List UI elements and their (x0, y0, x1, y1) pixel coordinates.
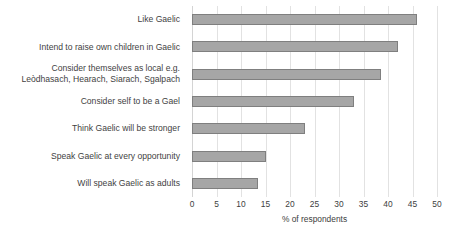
x-tick-label: 5 (214, 199, 219, 209)
bar-row (192, 170, 437, 197)
category-label: Consider themselves as local e.g. Leòdha… (0, 61, 186, 88)
bar[interactable] (192, 178, 258, 189)
category-label: Will speak Gaelic as adults (0, 170, 186, 197)
bar[interactable] (192, 41, 398, 52)
category-label: Intend to raise own children in Gaelic (0, 33, 186, 60)
bar[interactable] (192, 151, 266, 162)
bar-row (192, 6, 437, 33)
x-tick-label: 35 (359, 199, 368, 209)
category-axis: Like Gaelic Intend to raise own children… (0, 6, 186, 197)
bar-row (192, 115, 437, 142)
bar[interactable] (192, 96, 354, 107)
category-label: Think Gaelic will be stronger (0, 115, 186, 142)
x-tick-label: 45 (408, 199, 417, 209)
bar-row (192, 61, 437, 88)
x-tick-label: 30 (334, 199, 343, 209)
bar-chart: Like Gaelic Intend to raise own children… (0, 0, 460, 245)
x-tick-label: 10 (236, 199, 245, 209)
x-tick-label: 50 (432, 199, 441, 209)
plot-area (192, 6, 437, 197)
x-tick-label: 40 (383, 199, 392, 209)
x-tick-label: 25 (310, 199, 319, 209)
x-tick-label: 20 (285, 199, 294, 209)
x-tick-label: 15 (261, 199, 270, 209)
category-label: Speak Gaelic at every opportunity (0, 142, 186, 169)
value-axis: 05101520253035404550 (192, 199, 437, 212)
x-axis-title: % of respondents (192, 214, 437, 224)
category-label: Like Gaelic (0, 6, 186, 33)
bar[interactable] (192, 123, 305, 134)
bar-series (192, 6, 437, 197)
bar[interactable] (192, 69, 381, 80)
gridline (437, 6, 438, 197)
bar[interactable] (192, 14, 417, 25)
bar-row (192, 142, 437, 169)
x-tick-label: 0 (190, 199, 195, 209)
bar-row (192, 88, 437, 115)
bar-row (192, 33, 437, 60)
category-label: Consider self to be a Gael (0, 88, 186, 115)
